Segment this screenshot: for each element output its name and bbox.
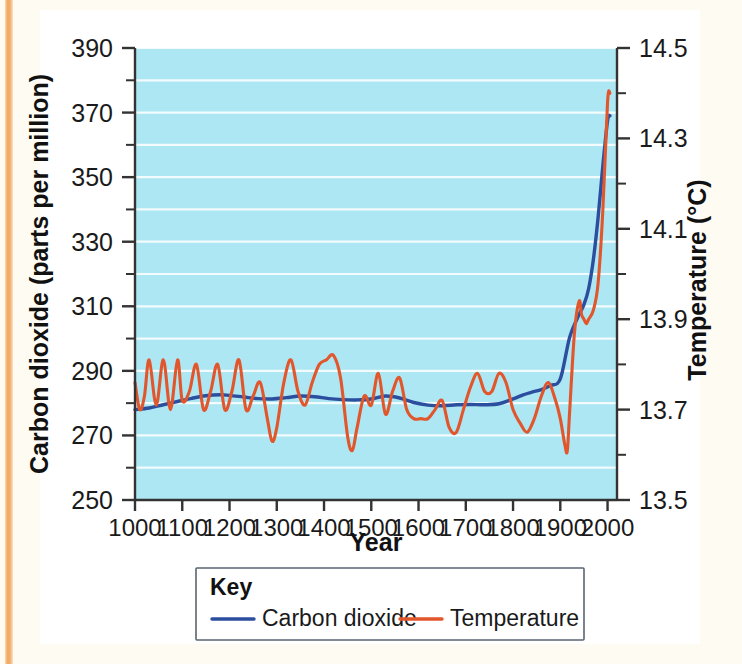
x-tick-label: 1900 [534,514,587,541]
x-tick-label: 2000 [581,514,634,541]
y-tick-label: 290 [71,357,113,385]
y2-tick-label: 14.3 [639,124,688,152]
legend-entry-label: Temperature [450,605,579,631]
chart-canvas: 250270290310330350370390 13.513.713.914.… [0,0,742,664]
y-tick-label: 250 [71,486,113,514]
y2-tick-label: 14.1 [639,215,688,243]
y-axis-title: Carbon dioxide (parts per million) [25,74,53,474]
left-axis-tick-labels: 250270290310330350370390 [71,34,113,514]
x-axis-title: Year [350,528,403,556]
y-tick-label: 370 [71,99,113,127]
y2-tick-label: 13.7 [639,396,688,424]
y2-tick-label: 13.5 [639,486,688,514]
bottom-axis-ticks [135,500,608,511]
y-tick-label: 390 [71,34,113,62]
x-tick-label: 1700 [439,514,492,541]
y-tick-label: 350 [71,163,113,191]
x-tick-label: 1800 [486,514,539,541]
x-tick-label: 1000 [108,514,161,541]
right-axis-tick-labels: 13.513.713.914.114.314.5 [639,34,688,514]
y-tick-label: 270 [71,421,113,449]
legend-title: Key [210,574,252,600]
right-axis-ticks [617,48,630,500]
legend-entry-label: Carbon dioxide [262,605,417,631]
chart-figure: 250270290310330350370390 13.513.713.914.… [0,0,742,664]
y2-tick-label: 14.5 [639,34,688,62]
x-tick-label: 1300 [250,514,303,541]
y-tick-label: 330 [71,228,113,256]
y-tick-label: 310 [71,292,113,320]
x-tick-label: 1100 [156,514,208,541]
y2-axis-title: Temperature (°C) [683,179,711,380]
y2-tick-label: 13.9 [639,305,688,333]
left-axis-ticks [122,48,135,500]
legend: Key Carbon dioxideTemperature [196,568,584,640]
x-tick-label: 1200 [203,514,256,541]
x-tick-label: 1400 [297,514,350,541]
legend-entries: Carbon dioxideTemperature [212,605,579,631]
